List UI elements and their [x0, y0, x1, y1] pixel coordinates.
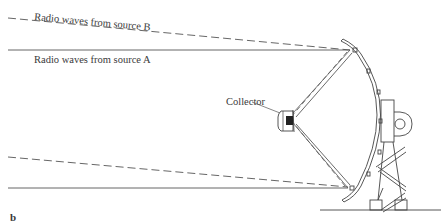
- source-b-ray-bottom: [8, 157, 348, 187]
- panel-label: b: [10, 211, 16, 223]
- source-b-label: Radio waves from source B: [34, 11, 151, 33]
- source-b-waves: [8, 18, 350, 187]
- source-a-waves: [8, 50, 350, 188]
- collector-leader-line: [252, 102, 280, 113]
- parabolic-dish: [341, 39, 381, 202]
- feed-struts: [296, 53, 352, 185]
- reflected-rays: [291, 50, 350, 188]
- collector-receiver: [286, 116, 293, 125]
- collector: [278, 110, 294, 132]
- source-a-label: Radio waves from source A: [34, 54, 151, 65]
- radio-telescope-diagram: Radio waves from source B Radio waves fr…: [0, 0, 441, 224]
- telescope-mount: [370, 100, 412, 212]
